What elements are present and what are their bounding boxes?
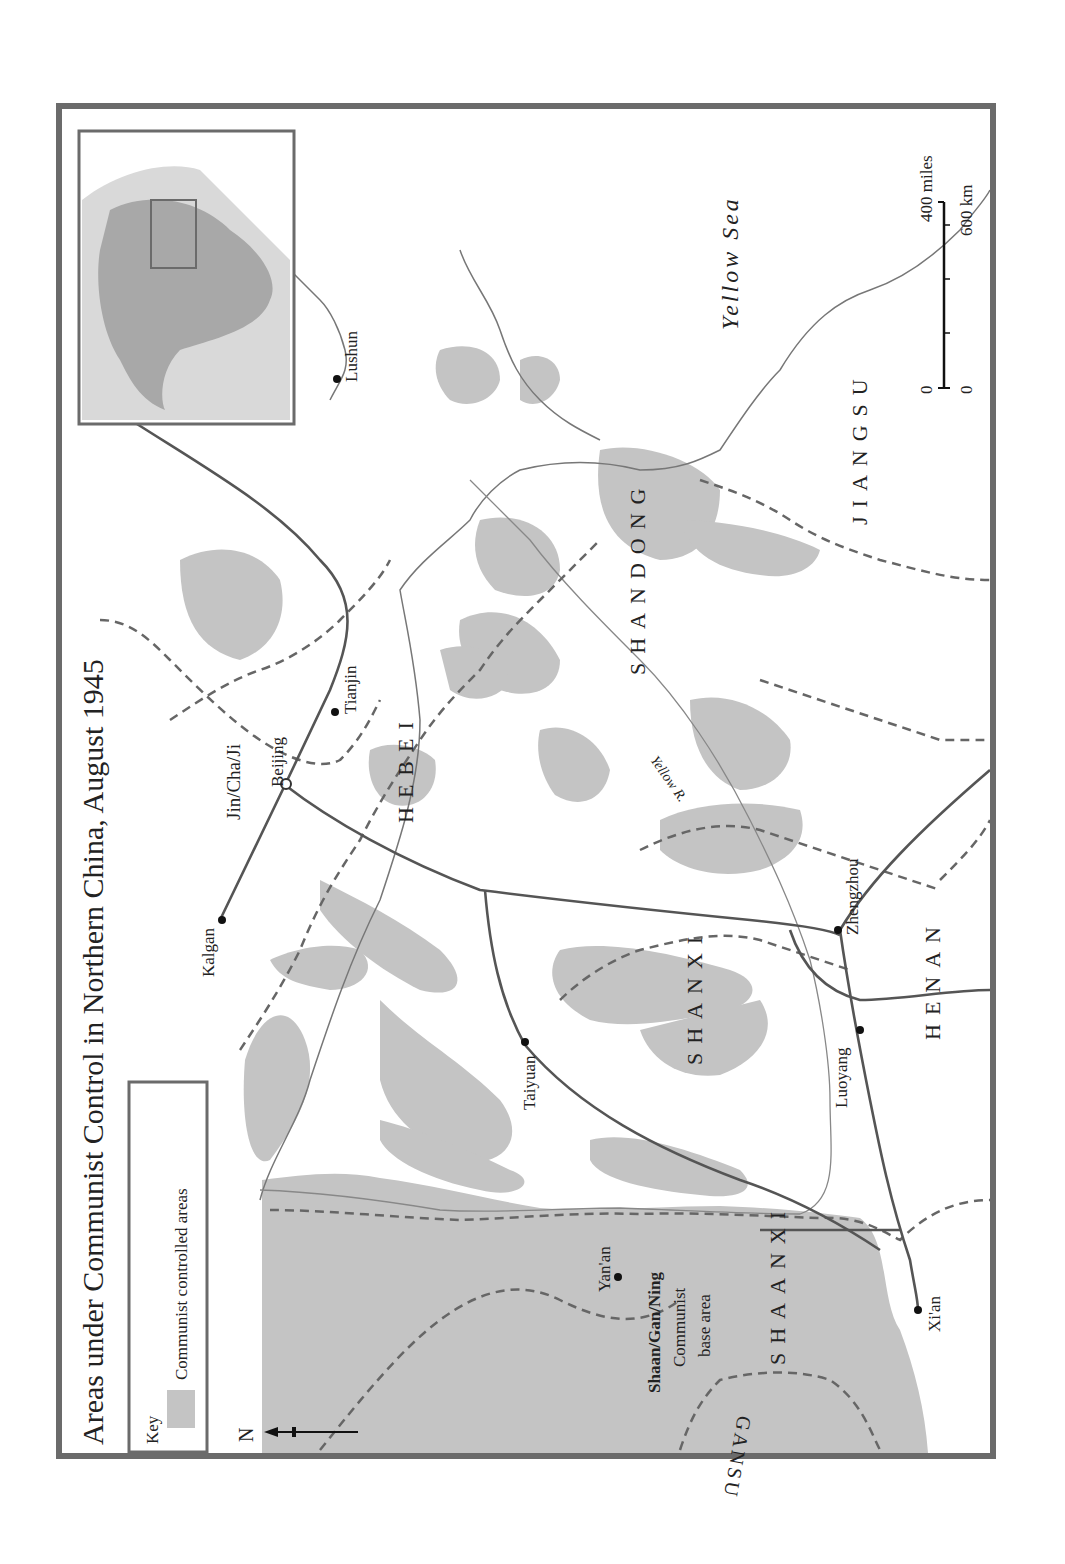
zhengzhou-marker	[834, 926, 842, 934]
legend-label-communist-area: Communist controlled areas	[172, 1188, 191, 1380]
province-shanxi: SHANXI	[682, 928, 707, 1065]
province-shaanxi: SHAANXI	[765, 1203, 790, 1365]
province-jiangsu: JIANGSU	[847, 370, 872, 525]
river-label-yellow: Yellow R.	[648, 753, 690, 805]
scale-bar	[938, 202, 950, 388]
city-label-beijing: Beijing	[268, 736, 287, 787]
map-title: Areas under Communist Control in Norther…	[76, 659, 109, 1445]
map-canvas: Areas under Communist Control in Norther…	[0, 0, 1065, 1564]
coastline	[260, 190, 990, 1200]
province-hebei: HEBEI	[393, 713, 418, 823]
base-area-shaan-gan-ning-line2: Communist	[670, 1287, 689, 1367]
inset-locator-map	[79, 131, 294, 424]
legend-swatch-communist-area	[167, 1390, 195, 1428]
legend-heading: Key	[143, 1415, 162, 1444]
city-label-kalgan: Kalgan	[199, 927, 218, 977]
city-label-tianjin: Tianjin	[341, 665, 360, 714]
legend-key	[129, 1082, 207, 1452]
sea-label-yellow-sea: Yellow Sea	[717, 196, 743, 330]
city-label-zhengzhou: Zhengzhou	[843, 858, 862, 935]
city-label-taiyuan: Taiyuan	[520, 1055, 539, 1110]
kalgan-marker	[218, 916, 226, 924]
communist-area-shaan-gan-ning	[262, 1174, 928, 1453]
city-label-xian: Xi'an	[925, 1295, 944, 1332]
province-henan: HENAN	[920, 918, 945, 1040]
province-shandong: SHANDONG	[625, 480, 650, 675]
city-label-luoyang: Luoyang	[832, 1047, 851, 1108]
base-area-shaan-gan-ning-line1: Shaan/Gan/Ning	[645, 1272, 664, 1393]
xian-marker	[914, 1306, 922, 1314]
tianjin-marker	[331, 708, 339, 716]
scale-miles-start: 0	[917, 386, 936, 395]
base-area-jin-cha-ji: Jin/Cha/Ji	[223, 744, 244, 820]
city-label-lushun: Lushun	[342, 331, 361, 383]
scale-miles-end: 400 miles	[917, 155, 936, 222]
yanan-marker	[614, 1273, 622, 1281]
base-area-shaan-gan-ning-line3: base area	[695, 1294, 714, 1357]
city-markers	[218, 375, 922, 1314]
north-label: N	[235, 1428, 257, 1442]
scale-km-start: 0	[957, 386, 976, 395]
city-label-yanan: Yan'an	[595, 1246, 614, 1292]
luoyang-marker	[856, 1026, 864, 1034]
scale-km-end: 600 km	[957, 185, 976, 236]
taiyuan-marker	[521, 1038, 529, 1046]
lushun-marker	[333, 375, 341, 383]
